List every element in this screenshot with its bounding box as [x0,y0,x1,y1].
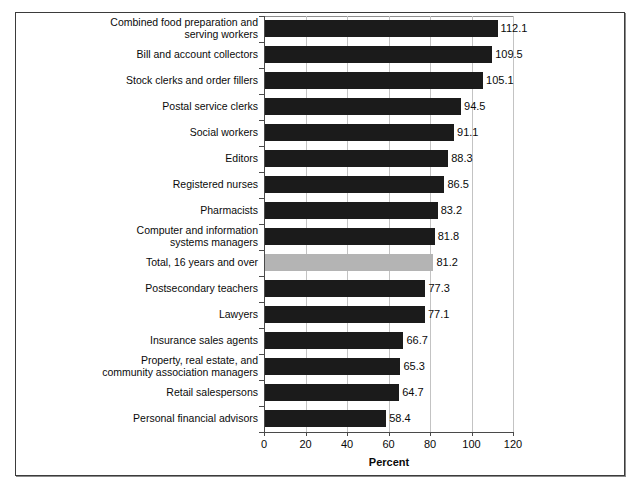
y-tick [259,42,264,43]
category-label: Pharmacists [20,204,258,216]
y-tick [259,302,264,303]
category-label: Insurance sales agents [20,334,258,346]
bar-value-label: 81.8 [438,228,459,245]
y-tick [259,250,264,251]
category-label: Lawyers [20,308,258,320]
bar-value-label: 94.5 [464,98,485,115]
x-tick-100 [472,432,473,436]
category-label: Stock clerks and order fillers [20,74,258,86]
chart-figure: 020406080100120 112.1109.5105.194.591.18… [0,0,638,491]
y-tick [259,354,264,355]
bar [265,46,492,63]
bar-value-label: 64.7 [402,384,423,401]
category-label: Retail salespersons [20,386,258,398]
bar-value-label: 83.2 [441,202,462,219]
category-label: Registered nurses [20,178,258,190]
x-tick-80 [430,432,431,436]
x-tick-20 [306,432,307,436]
bar-value-label: 105.1 [486,72,514,89]
bar-value-label: 86.5 [447,176,468,193]
bar [265,280,425,297]
x-tick-label-40: 40 [327,437,367,451]
category-label: Combined food preparation and serving wo… [20,16,258,40]
y-tick [259,198,264,199]
category-label: Postsecondary teachers [20,282,258,294]
bar [265,332,403,349]
y-tick [259,406,264,407]
y-tick [259,276,264,277]
bar [265,98,461,115]
bar [265,124,454,141]
bar-value-label: 77.1 [428,306,449,323]
y-tick [259,380,264,381]
y-tick [259,172,264,173]
x-tick-120 [513,432,514,436]
y-tick [259,224,264,225]
bar [265,150,448,167]
x-axis-title: Percent [264,456,514,468]
bar-value-label: 77.3 [428,280,449,297]
category-label: Personal financial advisors [20,412,258,424]
bar-value-label: 81.2 [436,254,457,271]
y-tick [259,68,264,69]
category-label: Property, real estate, and community ass… [20,354,258,378]
bar-value-label: 65.3 [403,358,424,375]
bar [265,72,483,89]
y-tick [259,16,264,17]
category-label: Editors [20,152,258,164]
x-tick-label-80: 80 [410,437,450,451]
bar-value-label: 112.1 [501,20,528,37]
bar-value-label: 66.7 [406,332,427,349]
bar-value-label: 58.4 [389,410,410,427]
x-tick-label-20: 20 [286,437,326,451]
x-tick-0 [264,432,265,436]
bar-value-label: 91.1 [457,124,478,141]
category-label: Bill and account collectors [20,48,258,60]
bar [265,176,444,193]
y-tick [259,432,264,433]
x-tick-40 [347,432,348,436]
y-tick [259,120,264,121]
bar-value-label: 88.3 [451,150,472,167]
category-label: Total, 16 years and over [20,256,258,268]
x-tick-label-60: 60 [369,437,409,451]
bar [265,306,425,323]
x-tick-label-100: 100 [452,437,492,451]
category-label: Postal service clerks [20,100,258,112]
y-tick [259,146,264,147]
bar [265,20,498,37]
bar [265,228,435,245]
bar-value-label: 109.5 [495,46,523,63]
y-tick [259,328,264,329]
bar [265,254,433,271]
category-label: Computer and information systems manager… [20,224,258,248]
bar [265,358,400,375]
x-tick-label-0: 0 [244,437,284,451]
category-label: Social workers [20,126,258,138]
bar [265,384,399,401]
x-tick-60 [389,432,390,436]
bar [265,202,438,219]
x-tick-label-120: 120 [493,437,533,451]
bar [265,410,386,427]
y-tick [259,94,264,95]
